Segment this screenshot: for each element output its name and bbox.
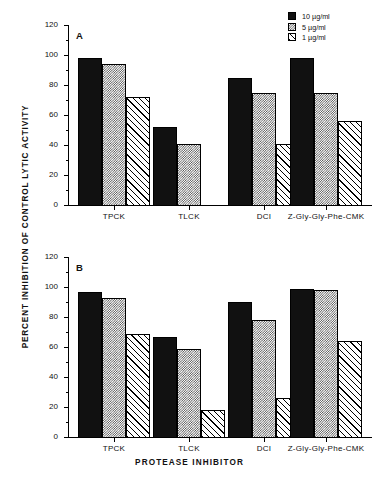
- bar: [102, 298, 126, 439]
- bar: [201, 410, 225, 438]
- y-tick-major: [64, 257, 68, 258]
- y-tick-label: 80: [32, 313, 58, 321]
- y-tick-major: [64, 407, 68, 408]
- x-tick: [114, 438, 115, 442]
- y-tick-minor: [66, 392, 68, 393]
- x-tick: [264, 438, 265, 442]
- panel-b: 020406080100120BTPCKTLCKDCIZ-Gly-Gly-Phe…: [0, 0, 379, 483]
- y-tick-label: 120: [32, 253, 58, 261]
- bar: [338, 341, 362, 438]
- y-tick-major: [64, 287, 68, 288]
- y-tick-minor: [66, 302, 68, 303]
- panel-letter-b: B: [76, 262, 83, 273]
- y-tick-major: [64, 347, 68, 348]
- x-axis-label: PROTEASE INHIBITOR: [0, 458, 379, 467]
- x-tick: [189, 438, 190, 442]
- bar: [228, 302, 252, 438]
- y-tick-minor: [66, 362, 68, 363]
- y-tick-label: 20: [32, 403, 58, 411]
- bar: [252, 320, 276, 438]
- y-tick-minor: [66, 272, 68, 273]
- y-tick-minor: [66, 422, 68, 423]
- y-tick-label: 60: [32, 343, 58, 351]
- bar: [314, 290, 338, 438]
- bar: [290, 289, 314, 439]
- y-tick-label: 40: [32, 373, 58, 381]
- bar: [126, 334, 150, 439]
- y-tick-major: [64, 437, 68, 438]
- y-axis-line: [68, 257, 69, 438]
- bar: [153, 337, 177, 439]
- figure-root: PERCENT INHIBITION OF CONTROL LYTIC ACTI…: [0, 0, 379, 483]
- y-tick-minor: [66, 332, 68, 333]
- y-tick-major: [64, 377, 68, 378]
- y-tick-label: 0: [32, 433, 58, 441]
- bar: [177, 349, 201, 439]
- y-tick-label: 100: [32, 283, 58, 291]
- x-tick-label: Z-Gly-Gly-Phe-CMK: [271, 444, 379, 453]
- bar: [78, 292, 102, 439]
- x-tick: [326, 438, 327, 442]
- y-tick-major: [64, 317, 68, 318]
